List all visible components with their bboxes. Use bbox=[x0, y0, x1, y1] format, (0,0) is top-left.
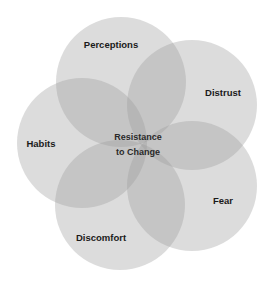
center-label-line1: Resistance bbox=[114, 132, 162, 142]
petal-label-fear: Fear bbox=[213, 195, 233, 206]
venn-diagram: PerceptionsDistrustFearDiscomfortHabits … bbox=[0, 0, 268, 283]
center-label-line2: to Change bbox=[116, 147, 160, 157]
petal-label-perceptions: Perceptions bbox=[84, 39, 138, 50]
petal-label-habits: Habits bbox=[26, 138, 55, 149]
petal-label-distrust: Distrust bbox=[205, 87, 242, 98]
petal-label-discomfort: Discomfort bbox=[76, 232, 127, 243]
